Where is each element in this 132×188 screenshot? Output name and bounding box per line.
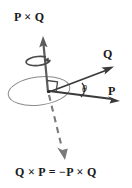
vector-q-shaft xyxy=(49,70,107,92)
cross-product-up-arrow-shaft xyxy=(44,44,49,92)
vector-cross-product-figure: P × Q Q P θ Q × P = −P × Q xyxy=(0,0,132,188)
cross-product-down-dashed-arrow-head xyxy=(57,148,68,161)
vector-p-label: P xyxy=(108,85,115,97)
cross-product-pxq-label: P × Q xyxy=(14,11,44,23)
vector-p-shaft xyxy=(49,91,112,99)
origin-point xyxy=(47,90,50,93)
vector-q-label: Q xyxy=(103,48,112,60)
plane-ellipse xyxy=(7,73,72,108)
angle-theta-label: θ xyxy=(82,84,87,94)
cross-product-anticommutativity-equation: Q × P = −P × Q xyxy=(15,166,97,178)
